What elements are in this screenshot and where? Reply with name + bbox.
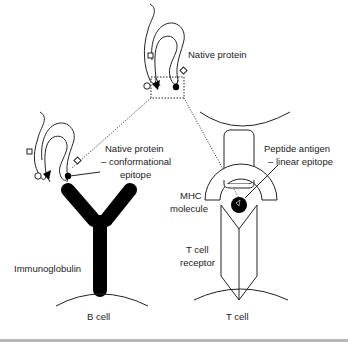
diamond-icon bbox=[74, 157, 81, 164]
open-circle-icon bbox=[35, 173, 41, 179]
label-mhc-2: molecule bbox=[170, 203, 208, 214]
native-protein-top bbox=[144, 4, 184, 86]
label-tcr-1: T cell bbox=[186, 244, 209, 255]
triangle-icon bbox=[43, 170, 51, 180]
t-cell-membrane bbox=[194, 289, 288, 300]
label-t-cell: T cell bbox=[226, 311, 249, 322]
label-peptide-1: Peptide antigen bbox=[264, 143, 330, 154]
label-mhc-1: MHC bbox=[180, 190, 202, 201]
square-icon bbox=[27, 149, 32, 154]
bottom-divider bbox=[0, 339, 348, 342]
pointer-conformational-epitope bbox=[70, 172, 100, 176]
native-protein-bcell bbox=[34, 112, 74, 182]
open-circle-icon bbox=[144, 83, 150, 89]
label-native-protein-top: Native protein bbox=[188, 49, 247, 60]
apc-membrane bbox=[200, 112, 290, 126]
label-native-protein-left-1: Native protein bbox=[105, 143, 164, 154]
label-peptide-2: – linear epitope bbox=[268, 156, 333, 167]
label-immunoglobulin: Immunoglobulin bbox=[14, 263, 81, 274]
label-tcr-2: receptor bbox=[180, 257, 215, 268]
label-b-cell: B cell bbox=[87, 311, 110, 322]
mhc-overlap-mask bbox=[225, 184, 253, 188]
diamond-icon bbox=[180, 67, 187, 74]
filled-circle-icon bbox=[173, 84, 179, 90]
square-icon bbox=[148, 53, 153, 58]
diagram-canvas: Native protein Native protein – conforma… bbox=[0, 0, 348, 344]
label-native-protein-left-3: epitope bbox=[120, 169, 151, 180]
t-cell-receptor bbox=[221, 205, 257, 300]
immunoglobulin bbox=[68, 190, 130, 290]
label-native-protein-left-2: – conformational bbox=[101, 156, 171, 167]
